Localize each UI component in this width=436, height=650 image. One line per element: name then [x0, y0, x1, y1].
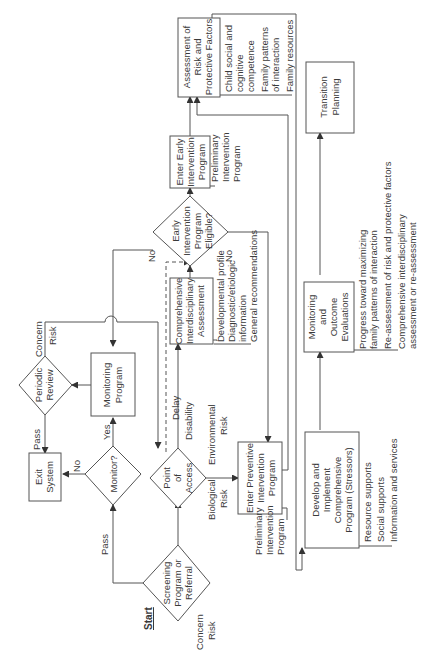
transition-planning-box: Transition Planning	[306, 62, 354, 133]
ei-line2: Intervention	[181, 206, 192, 256]
dev-line3: Comprehensive	[332, 457, 343, 524]
dev-annotation: Information and services	[388, 438, 399, 542]
dev-line2: Implement	[321, 467, 332, 512]
monitoring-outcome-box: Monitoring and Outcome Evaluations Progr…	[304, 161, 418, 352]
monitor-yes-label: Yes	[101, 424, 112, 440]
poa-biological-label: Biological	[206, 479, 217, 520]
arp-annotation: Child social and	[223, 25, 234, 92]
periodic-review-decision: Periodic Review	[19, 356, 72, 415]
epi-line2: Intervention	[255, 453, 266, 503]
review-line2: Review	[44, 369, 55, 400]
poa-delay-label: Delay	[170, 395, 181, 420]
ei-no-top-label: No	[146, 250, 157, 262]
epi-line3: Program	[266, 460, 277, 497]
screening-risk-label: Risk	[206, 621, 217, 640]
poa-biological-risk-label: Risk	[218, 489, 229, 508]
ca-line3: Assessment	[195, 285, 206, 337]
arp-annotation: Family patterns	[259, 27, 270, 92]
screening-line3: Referral	[183, 566, 194, 600]
poa-line3: Access	[183, 462, 194, 493]
moe-annotation: Comprehensive interdisciplinary	[396, 214, 407, 349]
poa-environmental-label: Environmental	[206, 404, 217, 465]
point-of-access-decision: Point of Access	[150, 448, 206, 508]
ca-annotations: Developmental profile Diagnostic/etiolog…	[215, 230, 259, 342]
start-label: Start	[143, 607, 154, 630]
ei-line4: Eligible?	[203, 213, 214, 249]
ca-annotation: General recommendations	[248, 230, 259, 342]
assessment-risk-box: Assessment of Risk and Protective Factor…	[178, 18, 295, 97]
monitor-label: Monitor?	[108, 456, 119, 493]
review-risk-label: Risk	[47, 326, 58, 345]
screening-concern-label: Concern	[194, 614, 205, 650]
monprog-line2: Program	[113, 367, 124, 404]
eei-line2: Intervention	[185, 137, 196, 187]
dev-annotation: Resource supports	[362, 462, 373, 542]
eei-line1: Enter Early	[174, 138, 185, 185]
moe-annotations: Progress toward maximizing family patter…	[357, 161, 418, 349]
exit-line2: System	[44, 461, 55, 493]
moe-annotation: Re-assessment of risk and protective fac…	[382, 161, 393, 349]
eei-annotations: Preliminary Intervention Program	[209, 132, 242, 182]
monitor-no-label: No	[71, 460, 82, 472]
moe-line4: Evaluations	[339, 292, 350, 341]
tp-line2: Planning	[330, 79, 341, 116]
moe-annotation: assessment or re-assessment	[407, 222, 418, 349]
ei-no-bottom-label: No	[223, 250, 234, 262]
dev-annotations: Resource supports Social supports Inform…	[362, 438, 399, 542]
arp-annotation: of interaction	[270, 38, 281, 92]
ca-line2: Interdisciplinary	[184, 278, 195, 344]
moe-line3: Outcome	[328, 298, 339, 337]
eei-annotation: Intervention	[220, 132, 231, 182]
eei-annotation: Preliminary	[209, 134, 220, 182]
screening-pass-label: Pass	[99, 534, 110, 555]
poa-line2: of	[172, 474, 183, 482]
ca-line1: Comprehensive	[173, 278, 184, 345]
enter-early-intervention-box: Enter Early Intervention Program Prelimi…	[170, 132, 242, 188]
arp-annotation: competence	[245, 40, 256, 92]
moe-annotation: Progress toward maximizing	[357, 230, 368, 349]
epi-annotation: Intervention	[264, 505, 275, 555]
ca-annotation: Developmental profile	[215, 250, 226, 342]
monitoring-program-box: Monitoring Program	[91, 353, 135, 416]
dev-annotation: Social supports	[375, 477, 386, 542]
enter-preventive-box: Enter Preventive Intervention Program Pr…	[238, 442, 287, 555]
dev-line4: Program (Stressors)	[343, 447, 354, 533]
monprog-line1: Monitoring	[101, 363, 112, 407]
epi-line1: Enter Preventive	[244, 443, 255, 513]
develop-implement-box: Develop and Implement Comprehensive Prog…	[305, 432, 399, 548]
ei-line1: Early	[170, 220, 181, 242]
poa-disability-label: Disability	[183, 402, 194, 440]
poa-environmental-risk-label: Risk	[218, 416, 229, 435]
ca-annotation: information	[237, 295, 248, 342]
dev-line1: Develop and	[310, 463, 321, 516]
eei-line3: Program	[196, 144, 207, 181]
moe-line2: and	[317, 309, 328, 325]
exit-system-box: Exit System	[29, 453, 61, 501]
arp-line3: Protective Factors	[203, 18, 214, 95]
review-concern-label: Concern	[33, 321, 44, 357]
monitor-decision: Monitor?	[85, 446, 141, 505]
arp-annotations: Child social and cognitive competence Fa…	[223, 19, 295, 92]
screening-line2: Program or	[172, 559, 183, 607]
poa-line1: Point	[161, 467, 172, 489]
moe-annotation: family patterns of interaction	[368, 230, 379, 349]
tp-line1: Transition	[318, 76, 329, 117]
ca-annotation: Diagnostic/etiologic	[226, 260, 237, 342]
arp-line2: Risk and	[192, 39, 203, 76]
eei-annotation: Program	[231, 145, 242, 182]
arp-line1: Assessment of	[181, 25, 192, 88]
arp-annotation: cognitive	[234, 55, 245, 93]
epi-annotation: Program	[275, 518, 286, 555]
epi-annotation: Preliminary	[253, 507, 264, 555]
ei-line3: Program	[192, 213, 203, 250]
moe-line1: Monitoring	[306, 295, 317, 339]
screening-line1: Screening	[161, 562, 172, 605]
arp-annotation: Family resources	[284, 19, 295, 92]
exit-line1: Exit	[33, 469, 44, 485]
review-line1: Periodic	[33, 368, 44, 403]
review-pass-label: Pass	[31, 429, 42, 450]
flowchart-canvas: Screening Program or Referral Start Conc…	[0, 0, 436, 650]
